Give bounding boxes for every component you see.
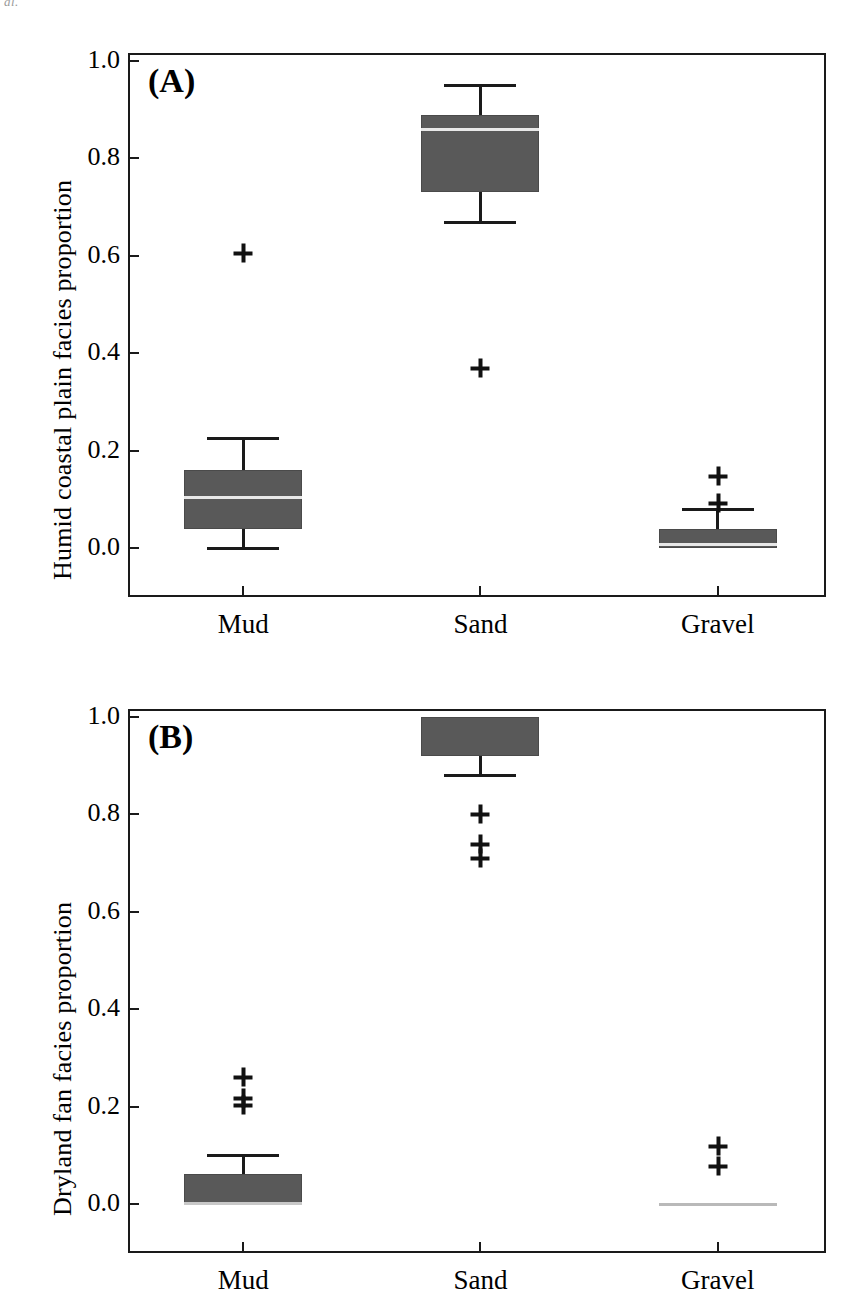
panel-b: Dryland fan facies proportion 0.00.20.40… xyxy=(0,656,861,1312)
x-tick-mark xyxy=(479,586,481,597)
y-tick-label: 0.6 xyxy=(54,242,120,268)
y-tick-mark xyxy=(128,911,139,913)
x-tick-mark xyxy=(717,1242,719,1253)
plot-area-a xyxy=(128,53,826,597)
x-tick-label-mud: Mud xyxy=(218,609,269,640)
y-tick-mark xyxy=(128,1203,139,1205)
y-tick-label: 0.6 xyxy=(54,898,120,924)
x-tick-label-sand: Sand xyxy=(453,609,507,640)
y-tick-label: 0.8 xyxy=(54,144,120,170)
y-tick-label: 0.8 xyxy=(54,800,120,826)
y-axis-ticks-a: 0.00.20.40.60.81.0 xyxy=(48,0,120,656)
x-tick-label-gravel: Gravel xyxy=(681,1265,754,1296)
y-tick-mark xyxy=(128,255,139,257)
y-tick-mark xyxy=(128,1008,139,1010)
x-tick-mark xyxy=(479,1242,481,1253)
x-tick-mark xyxy=(242,586,244,597)
y-tick-mark xyxy=(128,450,139,452)
x-tick-mark xyxy=(242,1242,244,1253)
y-tick-label: 0.0 xyxy=(54,534,120,560)
x-tick-label-gravel: Gravel xyxy=(681,609,754,640)
figure-page: al. Humid coastal plain facies proportio… xyxy=(0,0,861,1312)
panel-a: Humid coastal plain facies proportion 0.… xyxy=(0,0,861,656)
y-axis-ticks-b: 0.00.20.40.60.81.0 xyxy=(48,656,120,1312)
x-tick-label-mud: Mud xyxy=(218,1265,269,1296)
y-tick-mark xyxy=(128,60,139,62)
x-tick-label-sand: Sand xyxy=(453,1265,507,1296)
y-tick-label: 1.0 xyxy=(54,703,120,729)
y-tick-label: 1.0 xyxy=(54,47,120,73)
y-tick-mark xyxy=(128,813,139,815)
y-tick-mark xyxy=(128,547,139,549)
x-tick-mark xyxy=(717,586,719,597)
plot-area-b xyxy=(128,709,826,1253)
y-tick-mark xyxy=(128,157,139,159)
y-tick-mark xyxy=(128,352,139,354)
panel-label-a: (A) xyxy=(148,62,195,100)
y-tick-label: 0.2 xyxy=(54,437,120,463)
y-tick-label: 0.4 xyxy=(54,339,120,365)
y-tick-label: 0.4 xyxy=(54,995,120,1021)
y-tick-mark xyxy=(128,716,139,718)
y-tick-label: 0.2 xyxy=(54,1093,120,1119)
y-tick-mark xyxy=(128,1106,139,1108)
y-tick-label: 0.0 xyxy=(54,1190,120,1216)
panel-label-b: (B) xyxy=(148,718,193,756)
